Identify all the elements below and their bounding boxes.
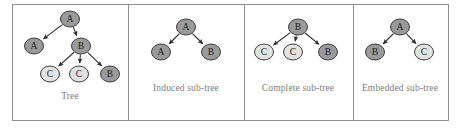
tree-edge-b-to-c-middle: [80, 55, 81, 63]
node-letter: C: [261, 47, 267, 57]
figure-canvas: AABCCBAABBCCBABC TreeInduced sub-treeCom…: [0, 0, 459, 130]
induced-sub-tree-node-root-a: A: [177, 19, 196, 35]
node-letter: C: [76, 69, 82, 79]
node-letter: A: [397, 22, 404, 32]
tree-node-root-a: A: [61, 11, 80, 27]
caption-complete-sub-tree: Complete sub-tree: [262, 83, 334, 93]
induced-sub-tree-node-left-a: A: [152, 44, 171, 60]
node-letter: B: [208, 47, 214, 57]
node-letter: C: [421, 47, 427, 57]
tree-node-leaf-c-middle: C: [70, 66, 89, 82]
complete-sub-tree-node-leaf-b-right: B: [319, 44, 338, 60]
node-letter: A: [67, 14, 74, 24]
induced-sub-tree-node-right-b: B: [202, 44, 221, 60]
embedded-sub-tree-node-right-c: C: [415, 44, 434, 60]
tree-subtree-figure: AABCCBAABBCCBABC TreeInduced sub-treeCom…: [0, 0, 459, 130]
caption-embedded-sub-tree: Embedded sub-tree: [362, 83, 438, 93]
node-letter: C: [290, 47, 296, 57]
node-letter: B: [78, 41, 84, 51]
complete-sub-tree-node-leaf-c-left: C: [255, 44, 274, 60]
node-letter: B: [325, 47, 331, 57]
caption-induced-sub-tree: Induced sub-tree: [153, 83, 219, 93]
embedded-sub-tree-node-left-b: B: [366, 44, 385, 60]
tree-node-right-b: B: [72, 38, 91, 54]
node-letter: B: [372, 47, 378, 57]
node-letter: B: [107, 69, 113, 79]
caption-tree: Tree: [61, 91, 79, 101]
node-letter: A: [31, 41, 38, 51]
embedded-sub-tree-node-root-a: A: [391, 19, 410, 35]
tree-node-left-a: A: [25, 38, 44, 54]
complete-sub-tree-node-leaf-c-mid: C: [284, 44, 303, 60]
tree-node-leaf-c-left: C: [41, 66, 60, 82]
node-letter: A: [183, 22, 190, 32]
node-letter: B: [295, 22, 301, 32]
node-letter: A: [158, 47, 165, 57]
complete-sub-tree-node-root-b: B: [289, 19, 308, 35]
node-letter: C: [47, 69, 53, 79]
tree-node-leaf-b-right: B: [101, 66, 120, 82]
